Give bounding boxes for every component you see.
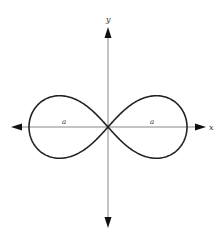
right-lobe-label: a — [150, 118, 154, 126]
x-axis-left-arrow-icon — [11, 124, 22, 131]
left-lobe-label: a — [62, 118, 66, 126]
y-axis-up-arrow-icon — [105, 27, 112, 38]
y-axis-down-arrow-icon — [105, 217, 112, 228]
lemniscate-diagram: y x a a — [0, 0, 224, 240]
y-axis-label: y — [105, 15, 111, 24]
x-axis-right-arrow-icon — [195, 124, 206, 131]
x-axis-label: x — [209, 123, 214, 132]
